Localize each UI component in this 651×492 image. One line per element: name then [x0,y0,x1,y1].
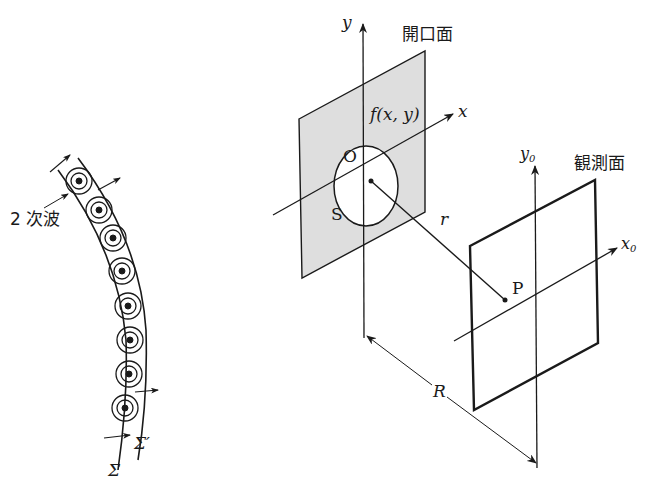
secondary-wave-pointer [44,194,68,208]
y0-axis-label: y0 [520,146,535,164]
aperture-function-label: f(x, y) [370,106,420,123]
wavefront-sigma-prime-label: Σ′ [134,435,150,452]
distance-r-label: r [440,211,448,228]
point-p-label: P [512,280,523,297]
origin-label: O [343,148,357,165]
x0-subscript: 0 [630,243,636,254]
secondary-wavelets [66,168,143,421]
distance-r-line [371,181,505,300]
y-axis-label: y [342,14,352,31]
distance-R-label: R [433,383,446,400]
distance-R-arrow-b [447,397,536,463]
propagation-arrow-lower [135,390,158,392]
aperture-region-label: S [331,206,343,223]
x-axis-label: x [458,103,468,120]
propagation-arrow-upper [98,178,120,190]
observation-plane-label: 観測面 [574,155,625,172]
x0-base: x [621,234,630,253]
x0-axis-label: x0 [621,236,636,254]
wavefront-sigma-label: Σ [108,462,120,479]
huygens-panel [44,155,158,470]
y0-base: y [520,144,529,163]
secondary-wave-label: 2 次波 [10,211,60,228]
propagation-arrow-top [50,155,70,172]
diffraction-diagram [0,0,651,492]
observation-point-p [503,298,508,303]
aperture-point [369,179,374,184]
propagation-arrow-bottom [104,435,130,438]
y0-subscript: 0 [529,153,535,164]
y-axis [363,24,364,338]
distance-R-arrow-a [367,336,432,385]
aperture-plane-label: 開口面 [402,26,453,43]
